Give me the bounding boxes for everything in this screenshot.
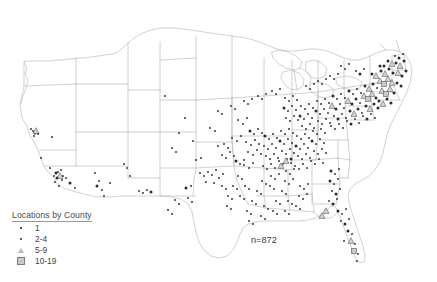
location-marker [301, 158, 303, 160]
location-marker [303, 118, 305, 120]
location-marker [252, 162, 254, 164]
location-marker [370, 113, 372, 115]
location-marker [298, 168, 300, 170]
location-marker [243, 198, 245, 200]
location-marker [239, 163, 241, 165]
location-marker [251, 200, 253, 202]
location-marker [250, 144, 252, 146]
location-marker [311, 140, 314, 143]
location-marker [276, 137, 278, 139]
location-marker [347, 230, 350, 233]
location-marker [355, 98, 358, 101]
legend-symbol-triangle-icon [12, 248, 30, 253]
location-marker [358, 122, 360, 124]
location-marker [237, 175, 239, 177]
location-marker [261, 132, 263, 134]
location-marker [304, 133, 306, 135]
location-marker [371, 73, 374, 76]
location-marker [94, 172, 96, 174]
location-marker [223, 143, 225, 145]
location-marker [280, 130, 282, 132]
location-marker [236, 140, 238, 142]
location-marker [235, 160, 238, 163]
location-marker [230, 105, 232, 107]
location-marker [232, 185, 234, 187]
location-marker [351, 233, 353, 235]
location-marker [311, 117, 313, 119]
legend-label-3: 5-9 [35, 245, 47, 255]
location-marker [279, 140, 282, 143]
location-marker [255, 203, 257, 205]
location-marker [217, 145, 219, 147]
location-marker [337, 178, 339, 180]
location-marker [171, 213, 173, 215]
location-marker [274, 178, 276, 180]
location-marker [377, 107, 380, 110]
location-marker [272, 133, 274, 135]
location-marker [296, 135, 298, 137]
location-marker [300, 138, 302, 140]
location-marker [264, 135, 267, 138]
location-marker [365, 96, 370, 101]
location-marker [284, 133, 286, 135]
location-marker [386, 98, 389, 101]
location-marker [276, 213, 278, 215]
location-marker [390, 102, 393, 105]
location-marker [359, 102, 361, 104]
location-marker [298, 195, 300, 197]
location-marker [279, 88, 281, 90]
location-marker [146, 189, 148, 191]
location-marker [171, 147, 173, 149]
location-marker [209, 127, 211, 129]
legend: Locations by County 1 2-4 5-9 10-19 [12, 204, 124, 266]
location-marker [285, 117, 287, 119]
location-marker [103, 195, 105, 197]
location-marker [272, 210, 274, 212]
location-marker [69, 182, 72, 185]
location-marker [265, 183, 267, 185]
location-marker [211, 174, 213, 176]
location-marker [396, 82, 399, 85]
location-marker [335, 108, 338, 111]
location-marker [51, 136, 53, 138]
location-marker [378, 100, 381, 103]
location-marker [354, 118, 356, 120]
location-marker [383, 65, 386, 68]
location-marker [356, 88, 358, 90]
location-marker [292, 132, 294, 134]
location-marker [285, 153, 287, 155]
location-marker [265, 93, 267, 95]
location-marker [30, 128, 32, 130]
location-marker [174, 199, 176, 201]
location-marker [243, 159, 245, 161]
location-marker [284, 180, 286, 182]
location-marker [248, 188, 250, 190]
location-marker [351, 248, 356, 253]
location-marker [299, 148, 301, 150]
location-marker [361, 112, 363, 114]
location-marker [260, 153, 262, 155]
location-marker [288, 183, 290, 185]
location-marker [260, 193, 262, 195]
location-marker [248, 220, 250, 222]
location-marker [304, 108, 306, 110]
location-marker [372, 83, 375, 86]
location-marker [318, 158, 320, 160]
location-marker [240, 135, 242, 137]
location-marker [332, 203, 335, 206]
location-marker [352, 93, 354, 95]
location-marker [314, 163, 316, 165]
location-marker [305, 128, 307, 130]
location-marker [65, 177, 67, 179]
location-marker [313, 83, 315, 85]
location-marker [325, 118, 327, 120]
location-marker [345, 117, 347, 119]
location-marker [321, 123, 323, 125]
location-marker [316, 100, 318, 102]
location-marker [340, 65, 342, 67]
location-marker [278, 160, 280, 162]
location-marker [289, 148, 291, 150]
location-marker [312, 130, 314, 132]
location-marker [283, 158, 289, 164]
location-marker [215, 169, 217, 171]
